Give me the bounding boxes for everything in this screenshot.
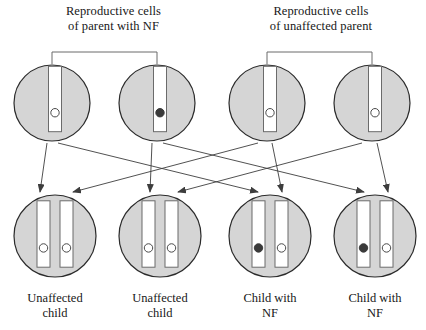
allele-marker-normal — [167, 244, 175, 252]
arrow-g2-c2 — [150, 143, 152, 192]
cell-membrane — [334, 195, 416, 277]
child-label-1: Unaffected child — [3, 291, 107, 320]
child-child-4 — [334, 195, 416, 277]
chromosome-bar — [37, 201, 50, 267]
inheritance-arrows — [40, 143, 388, 192]
chromosome-bar — [380, 201, 393, 267]
gamete-gamete-3 — [229, 65, 305, 141]
child-child-1 — [14, 195, 96, 277]
chromosome-bar — [369, 66, 382, 131]
arrow-g4-c4 — [377, 143, 388, 192]
child-child-2 — [119, 195, 201, 277]
diagram-canvas — [0, 0, 426, 330]
bracket-unaffected-parent — [267, 52, 372, 64]
allele-marker-normal — [266, 109, 274, 117]
arrow-g1-c1 — [40, 143, 47, 192]
allele-marker-normal — [277, 244, 285, 252]
gamete-cells — [14, 65, 410, 141]
arrow-g1-c3 — [58, 143, 258, 192]
gamete-gamete-2 — [119, 65, 195, 141]
parent-brackets — [52, 52, 372, 64]
allele-marker-normal — [51, 109, 59, 117]
chromosome-bar — [252, 201, 265, 267]
chromosome-bar — [154, 66, 167, 131]
chromosome-bar — [357, 201, 370, 267]
child-cells — [14, 195, 416, 277]
chromosome-bar — [264, 66, 277, 131]
cell-membrane — [14, 195, 96, 277]
allele-marker-nf — [359, 244, 367, 252]
allele-marker-normal — [62, 244, 70, 252]
child-child-3 — [229, 195, 311, 277]
gamete-gamete-4 — [334, 65, 410, 141]
arrow-g3-c3 — [272, 143, 282, 192]
inheritance-diagram: Reproductive cells of parent with NF Rep… — [0, 0, 426, 330]
allele-marker-nf — [156, 109, 164, 117]
bracket-parent-with-nf — [52, 52, 157, 64]
chromosome-bar — [165, 201, 178, 267]
child-label-3: Child with NF — [218, 291, 322, 320]
arrow-g3-c1 — [73, 143, 258, 192]
cell-membrane — [119, 195, 201, 277]
child-label-4: Child with NF — [323, 291, 426, 320]
allele-marker-normal — [144, 244, 152, 252]
allele-marker-normal — [39, 244, 47, 252]
gamete-gamete-1 — [14, 65, 90, 141]
allele-marker-normal — [371, 109, 379, 117]
cell-membrane — [229, 195, 311, 277]
chromosome-bar — [275, 201, 288, 267]
child-label-2: Unaffected child — [108, 291, 212, 320]
allele-marker-normal — [382, 244, 390, 252]
chromosome-bar — [142, 201, 155, 267]
chromosome-bar — [60, 201, 73, 267]
chromosome-bar — [49, 66, 62, 131]
allele-marker-nf — [254, 244, 262, 252]
